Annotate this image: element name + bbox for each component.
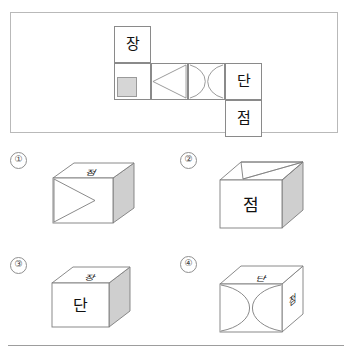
cube-net: 장 단 점 [106,26,256,126]
cube-iso-1: 점 [35,150,155,245]
net-cell-dan-label: 단 [226,64,261,99]
option-2-cube: 점 [202,148,327,248]
double-arc-lens-icon [189,64,224,99]
option-2-front-label: 점 [243,195,259,215]
net-panel: 장 단 점 [10,12,338,133]
worksheet-page: 장 단 점 [0,0,352,354]
gray-square-mark [117,77,137,97]
net-cell-jang-label: 장 [115,27,150,62]
option-3-front-label: 단 [73,296,88,315]
option-1-number: ① [10,152,27,169]
option-4-number: ④ [180,256,197,273]
option-3-cube: 장 단 [35,253,155,348]
page-bottom-rule [8,345,344,346]
option-1-cube: 점 [35,150,155,245]
cube-iso-4: 단 점 [202,252,327,352]
net-cell-jeom: 점 [225,100,262,137]
cube-iso-2: 점 [202,148,327,248]
net-cell-triangle [151,63,188,100]
option-3-number: ③ [10,257,27,274]
cube-iso-3: 장 단 [35,253,155,348]
option-4-cube: 단 점 [202,252,327,352]
net-cell-lens [188,63,225,100]
option-2-number: ② [180,152,197,169]
net-cell-gray-square [114,63,151,100]
net-cell-jang: 장 [114,26,151,63]
triangle-left-icon [152,64,187,99]
net-cell-dan: 단 [225,63,262,100]
net-cell-jeom-label: 점 [226,101,261,136]
